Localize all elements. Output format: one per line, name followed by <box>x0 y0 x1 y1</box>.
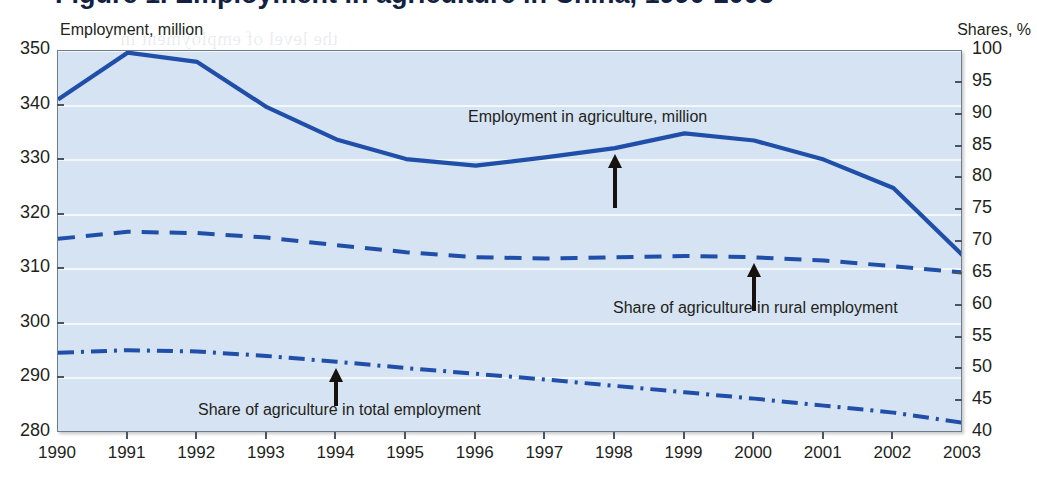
x-axis-tickmark <box>752 432 754 439</box>
y-axis-right-tick-label: 45 <box>972 388 992 409</box>
y-axis-right-tick-label: 40 <box>972 420 992 441</box>
x-axis-tickmark <box>265 432 267 439</box>
x-axis-tick-label-1997: 1997 <box>525 443 563 463</box>
y-axis-left-tick-label: 290 <box>8 365 50 386</box>
y-axis-left-tickmark <box>57 376 64 378</box>
y-axis-right-tick-label: 60 <box>972 293 992 314</box>
x-axis-tickmark <box>334 432 336 439</box>
y-axis-right-tickmark <box>955 272 962 274</box>
left-axis-caption: Employment, million <box>60 21 203 39</box>
y-axis-right-tickmark <box>955 399 962 401</box>
y-axis-left-tick-label: 330 <box>8 147 50 168</box>
x-axis-tick-label-1996: 1996 <box>456 443 494 463</box>
chart-plot-inner: Employment in agriculture, millionShare … <box>58 51 961 431</box>
y-axis-left-tick-label: 310 <box>8 256 50 277</box>
x-axis-tickmark <box>195 432 197 439</box>
x-axis-tickmark <box>613 432 615 439</box>
y-axis-left-tickmark <box>57 158 64 160</box>
y-axis-left-tick-label: 300 <box>8 311 50 332</box>
x-axis-tickmark <box>891 432 893 439</box>
y-axis-right-tick-label: 75 <box>972 197 992 218</box>
x-axis-tick-label-2001: 2001 <box>804 443 842 463</box>
x-axis-tick-label-1990: 1990 <box>38 443 76 463</box>
y-axis-right-tickmark <box>955 336 962 338</box>
y-axis-right-tickmark <box>955 176 962 178</box>
y-axis-left-tick-label: 320 <box>8 202 50 223</box>
x-axis-tick-label-1998: 1998 <box>595 443 633 463</box>
y-axis-left-tickmark <box>57 322 64 324</box>
x-axis-tick-label-1991: 1991 <box>108 443 146 463</box>
y-axis-left-tick-label: 280 <box>8 420 50 441</box>
x-axis-tick-label-1999: 1999 <box>665 443 703 463</box>
annot-total-share-arrow-icon <box>328 368 344 406</box>
y-axis-right-tickmark <box>955 145 962 147</box>
y-axis-right-tickmark <box>955 81 962 83</box>
y-axis-right-tickmark <box>955 304 962 306</box>
chart-plot-area: Employment in agriculture, millionShare … <box>57 50 962 432</box>
annot-employment-label: Employment in agriculture, million <box>468 108 707 126</box>
y-axis-left-tickmark <box>57 213 64 215</box>
x-axis-tick-label-1995: 1995 <box>386 443 424 463</box>
y-axis-left-tick-label: 350 <box>8 38 50 59</box>
x-axis-tickmark <box>126 432 128 439</box>
y-axis-right-tickmark <box>955 113 962 115</box>
y-axis-left-tick-label: 340 <box>8 93 50 114</box>
y-axis-right-tick-label: 65 <box>972 261 992 282</box>
x-axis-tick-label-1992: 1992 <box>177 443 215 463</box>
x-axis-tickmark <box>543 432 545 439</box>
annot-employment-arrow-icon <box>607 154 623 208</box>
series-line-2 <box>58 350 961 423</box>
y-axis-right-tick-label: 80 <box>972 165 992 186</box>
y-axis-left-tickmark <box>57 104 64 106</box>
y-axis-right-tick-label: 55 <box>972 325 992 346</box>
x-axis-tickmark <box>474 432 476 439</box>
x-axis-tick-label-1993: 1993 <box>247 443 285 463</box>
x-axis-tickmark <box>404 432 406 439</box>
y-axis-right-tick-label: 70 <box>972 229 992 250</box>
page-title: Figure 1. Employment in agriculture in C… <box>55 0 774 10</box>
y-axis-right-tickmark <box>955 208 962 210</box>
right-axis-caption: Shares, % <box>957 21 1031 39</box>
y-axis-right-tickmark <box>955 240 962 242</box>
figure-title-strip: Figure 1. Employment in agriculture in C… <box>0 0 1037 16</box>
x-axis-tickmark <box>822 432 824 439</box>
annot-rural-share-arrow-icon <box>746 263 762 311</box>
y-axis-right-tickmark <box>955 367 962 369</box>
x-axis-tick-label-2003: 2003 <box>943 443 981 463</box>
y-axis-right-tick-label: 85 <box>972 134 992 155</box>
x-axis-tick-label-1994: 1994 <box>317 443 355 463</box>
x-axis-tick-label-2002: 2002 <box>873 443 911 463</box>
y-axis-right-tick-label: 100 <box>972 38 1002 59</box>
series-line-0 <box>58 53 961 256</box>
y-axis-right-tick-label: 95 <box>972 70 992 91</box>
y-axis-right-tick-label: 50 <box>972 356 992 377</box>
y-axis-right-tick-label: 90 <box>972 102 992 123</box>
series-line-1 <box>58 232 961 273</box>
y-axis-left-tickmark <box>57 267 64 269</box>
x-axis-tick-label-2000: 2000 <box>734 443 772 463</box>
x-axis-tickmark <box>683 432 685 439</box>
